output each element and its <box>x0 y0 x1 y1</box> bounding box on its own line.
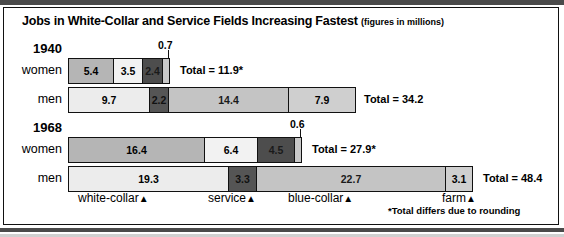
segment-value: 3.3 <box>235 173 250 185</box>
chart-page: Jobs in White-Collar and Service Fields … <box>0 0 564 237</box>
segment-1968-men-service: 3.3 <box>229 167 257 191</box>
bar-1940-men: 9.7 2.2 14.4 7.9 <box>68 87 356 113</box>
segment-value: 19.3 <box>138 173 158 185</box>
segment-value: 9.7 <box>102 94 117 106</box>
segment-1968-women-white-collar: 16.4 <box>69 138 205 162</box>
legend-triangle-icon: ▲ <box>343 193 353 204</box>
chart-title-main: Jobs in White-Collar and Service Fields … <box>22 14 358 28</box>
segment-value: 22.7 <box>341 173 361 185</box>
segment-1968-men-white-collar: 19.3 <box>69 167 229 191</box>
segment-value: 4.5 <box>269 144 284 156</box>
row-label-1968-men: men <box>0 171 62 185</box>
segment-1940-men-service: 2.2 <box>150 88 169 112</box>
chart-title: Jobs in White-Collar and Service Fields … <box>22 14 444 28</box>
bottom-rule <box>0 228 564 232</box>
segment-1940-men-farm: 7.9 <box>289 88 355 112</box>
callout-line-1968-women <box>300 129 301 137</box>
segment-1968-women-farm <box>295 138 301 162</box>
bar-1968-women: 16.4 6.4 4.5 <box>68 137 302 163</box>
bar-1940-women: 5.4 3.5 2.4 <box>68 58 170 84</box>
year-label-1940: 1940 <box>0 41 62 56</box>
legend-item-service: service▲ <box>208 191 256 205</box>
total-1968-men: Total = 48.4 <box>483 172 542 184</box>
total-1968-women: Total = 27.9* <box>312 143 376 155</box>
legend-triangle-icon: ▲ <box>139 193 149 204</box>
segment-value: 16.4 <box>126 144 146 156</box>
segment-1940-women-blue-collar: 2.4 <box>143 59 163 83</box>
legend-triangle-icon: ▲ <box>246 193 256 204</box>
segment-value: 14.4 <box>218 94 238 106</box>
legend-item-farm: farm▲ <box>442 191 476 205</box>
segment-value: 5.4 <box>84 65 99 77</box>
segment-1940-men-white-collar: 9.7 <box>69 88 150 112</box>
callout-1968-women-farm: 0.6 <box>290 118 305 130</box>
top-rule <box>0 0 564 5</box>
segment-1940-men-blue-collar: 14.4 <box>169 88 289 112</box>
segment-1940-women-farm <box>163 59 169 83</box>
segment-1968-women-blue-collar: 4.5 <box>258 138 295 162</box>
legend-item-blue-collar: blue-collar▲ <box>288 191 353 205</box>
year-label-1968: 1968 <box>0 120 62 135</box>
group-1940: 1940 women 5.4 3.5 2.4 0.7 Total = 11.9*… <box>0 41 564 101</box>
row-label-1940-women: women <box>0 63 62 77</box>
total-1940-women: Total = 11.9* <box>180 64 243 76</box>
footnote: *Total differs due to rounding <box>388 205 520 216</box>
legend-label-farm: farm <box>442 191 466 205</box>
row-label-1940-men: men <box>0 92 62 106</box>
legend-item-white-collar: white-collar▲ <box>78 191 149 205</box>
segment-value: 2.4 <box>145 65 160 77</box>
segment-1968-women-service: 6.4 <box>205 138 258 162</box>
segment-1940-women-white-collar: 5.4 <box>69 59 114 83</box>
segment-1968-men-farm: 3.1 <box>446 167 472 191</box>
legend-label-blue-collar: blue-collar <box>288 191 343 205</box>
segment-value: 2.2 <box>152 94 167 106</box>
group-1968: 1968 women 16.4 6.4 4.5 0.6 Total = 27.9… <box>0 120 564 180</box>
bar-1968-men: 19.3 3.3 22.7 3.1 <box>68 166 473 192</box>
chart-title-subtitle: (figures in millions) <box>361 17 444 27</box>
callout-line-1940-women <box>168 50 169 58</box>
legend-label-service: service <box>208 191 246 205</box>
segment-1968-men-blue-collar: 22.7 <box>257 167 446 191</box>
segment-value: 6.4 <box>224 144 239 156</box>
total-1940-men: Total = 34.2 <box>364 93 423 105</box>
segment-value: 7.9 <box>315 94 330 106</box>
row-label-1968-women: women <box>0 142 62 156</box>
bottom-rule-secondary <box>0 234 564 237</box>
callout-1940-women-farm: 0.7 <box>158 39 173 51</box>
legend-label-white-collar: white-collar <box>78 191 139 205</box>
legend-triangle-icon: ▲ <box>466 193 476 204</box>
segment-1940-women-service: 3.5 <box>114 59 143 83</box>
segment-value: 3.5 <box>121 65 136 77</box>
segment-value: 3.1 <box>452 173 467 185</box>
